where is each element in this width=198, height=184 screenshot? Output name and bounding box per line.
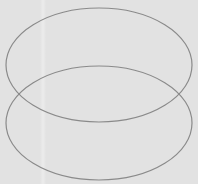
ellipses-figure <box>0 0 198 184</box>
top-ellipse <box>6 8 192 122</box>
diagram-canvas <box>0 0 198 184</box>
bottom-ellipse <box>6 66 192 180</box>
